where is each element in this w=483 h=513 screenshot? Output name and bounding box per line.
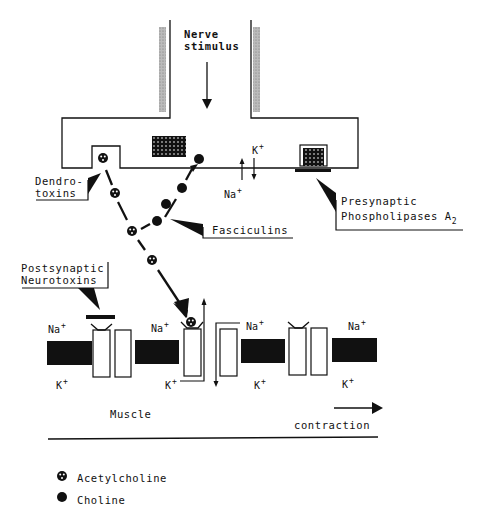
ach-receptor-channel	[289, 328, 306, 375]
na-label-3: Na+	[246, 318, 264, 332]
na-label-1: Na+	[48, 321, 66, 335]
muscle-baseline	[48, 437, 378, 439]
k-label-3: K+	[254, 377, 266, 391]
choline-molecule	[194, 154, 204, 164]
contraction-label: contraction	[294, 419, 370, 431]
ach-receptor-channel	[93, 330, 110, 377]
legend-acetylcholine-label: Acetylcholine	[77, 472, 167, 484]
acetylcholine-molecule	[110, 188, 120, 198]
dendrotoxins-label: Dendro- toxins	[35, 175, 83, 199]
nerve-stimulus-label: Nerve stimulus	[184, 28, 239, 52]
muscle-label: Muscle	[110, 408, 152, 420]
acetylcholine-molecule	[127, 226, 137, 236]
presynaptic-ion-flux-arrows	[240, 158, 257, 180]
legend-acetylcholine-icon	[57, 471, 67, 481]
stimulus-arrow	[202, 62, 212, 109]
myelin-sheath-left	[159, 27, 166, 112]
legend-choline-icon	[57, 492, 67, 502]
neuromuscular-junction-diagram	[0, 0, 483, 513]
na-label-4: Na+	[348, 318, 366, 332]
ion-channel	[311, 328, 327, 375]
k-label-1: K+	[56, 377, 68, 391]
muscle-membrane	[47, 298, 377, 387]
choline-reuptake-path	[141, 164, 198, 229]
ion-channel	[115, 330, 131, 377]
k-label-2: K+	[165, 377, 177, 391]
choline-molecule	[152, 216, 162, 226]
presynaptic-k-label: K+	[252, 142, 264, 156]
ach-receptor-channel	[184, 329, 201, 376]
legend-choline-label: Choline	[77, 494, 125, 506]
presynaptic-na-label: Na+	[224, 186, 242, 200]
bound-neurotoxin-bar	[86, 315, 115, 319]
choline-molecule	[161, 199, 171, 209]
myelin-sheath-right	[253, 27, 260, 112]
na-label-2: Na+	[151, 320, 169, 334]
acetylcholine-molecule	[98, 153, 108, 163]
acetylcholine-molecule	[147, 255, 157, 265]
choline-molecule	[177, 183, 187, 193]
ion-channel	[220, 329, 237, 376]
postsynaptic-neurotoxins-label: Postsynaptic Neurotoxins	[21, 262, 104, 286]
k-label-4: K+	[342, 376, 354, 390]
vesicle-block	[152, 136, 186, 157]
fasciculins-label: Fasciculins	[212, 224, 288, 236]
bound-acetylcholine	[186, 317, 196, 327]
contraction-arrow	[334, 402, 383, 414]
presynaptic-pla2-label: Presynaptic Phospholipases A2	[341, 194, 457, 229]
